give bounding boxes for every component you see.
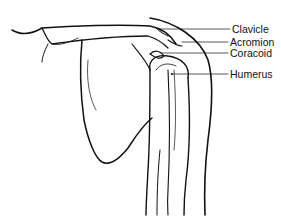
- label-humerus: Humerus: [230, 69, 273, 80]
- shoulder-diagram: Clavicle Acromion Coracoid Humerus: [0, 0, 281, 217]
- label-acromion: Acromion: [230, 37, 274, 48]
- label-clavicle: Clavicle: [232, 24, 269, 35]
- label-coracoid: Coracoid: [230, 48, 272, 59]
